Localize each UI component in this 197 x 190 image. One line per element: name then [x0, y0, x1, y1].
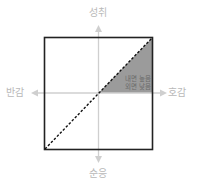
arrow-left-icon [31, 90, 38, 97]
arrow-down-icon [95, 156, 102, 163]
arrow-up-icon [95, 25, 102, 32]
axis-label-top: 성취 [89, 8, 107, 18]
axis-label-left: 반감 [6, 88, 24, 98]
shaded-region-label: 내면 높음 외면 낮음 [125, 75, 151, 92]
shaded-label-line2: 외면 낮음 [125, 83, 151, 91]
arrow-right-icon [160, 90, 167, 97]
axis-label-bottom: 순응 [89, 169, 107, 179]
axis-label-right: 호감 [168, 88, 186, 98]
